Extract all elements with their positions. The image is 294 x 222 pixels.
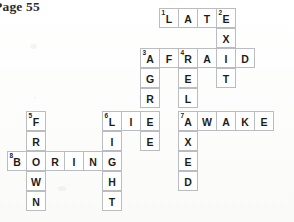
crossword-cell[interactable]: E <box>140 131 160 151</box>
crossword-cell[interactable]: 5F <box>26 111 46 131</box>
cell-letter: F <box>160 54 178 65</box>
crossword-cell[interactable]: T <box>216 68 236 88</box>
crossword-cell[interactable]: 2E <box>216 8 236 28</box>
cell-letter: T <box>198 14 216 25</box>
cell-letter: R <box>179 54 197 65</box>
crossword-cell[interactable]: K <box>235 111 255 131</box>
crossword-cell[interactable]: A <box>216 111 236 131</box>
crossword-cell[interactable]: 6L <box>102 111 122 131</box>
crossword-cell[interactable]: I <box>121 111 141 131</box>
cell-letter: E <box>179 157 197 168</box>
crossword-cell[interactable]: R <box>26 131 46 151</box>
crossword-cell[interactable]: G <box>102 151 122 171</box>
cell-letter: X <box>179 137 197 148</box>
crossword-cell[interactable]: D <box>178 171 198 191</box>
crossword-cell[interactable]: E <box>254 111 274 131</box>
crossword-cell[interactable]: G <box>140 68 160 88</box>
crossword-cell[interactable]: A <box>178 8 198 28</box>
cell-letter: E <box>141 117 159 128</box>
cell-letter: H <box>103 177 121 188</box>
cell-letter: X <box>217 34 235 45</box>
crossword-page: Page 55 1LAT2EX3AF4RAIDGETRL5F6LIE7AWAKE… <box>0 0 294 222</box>
cell-letter: A <box>179 14 197 25</box>
crossword-cell[interactable]: 7A <box>178 111 198 131</box>
cell-letter: N <box>84 157 102 168</box>
crossword-cell[interactable]: F <box>159 48 179 68</box>
cell-letter: T <box>217 74 235 85</box>
crossword-cell[interactable]: I <box>64 151 84 171</box>
cell-letter: L <box>179 94 197 105</box>
crossword-cell[interactable]: I <box>216 48 236 68</box>
cell-letter: I <box>103 137 121 148</box>
crossword-cell[interactable]: E <box>140 111 160 131</box>
crossword-cell[interactable]: I <box>102 131 122 151</box>
crossword-cell[interactable]: E <box>178 68 198 88</box>
cell-letter: D <box>236 54 254 65</box>
cell-letter: G <box>103 157 121 168</box>
crossword-cell[interactable]: 4R <box>178 48 198 68</box>
crossword-cell[interactable]: O <box>26 151 46 171</box>
cell-letter: E <box>217 14 235 25</box>
cell-letter: D <box>179 177 197 188</box>
cell-letter: R <box>141 94 159 105</box>
cell-letter: F <box>27 117 45 128</box>
cell-letter: I <box>122 117 140 128</box>
crossword-cell[interactable]: W <box>197 111 217 131</box>
crossword-cell[interactable]: A <box>197 48 217 68</box>
cell-letter: A <box>217 117 235 128</box>
crossword-cell[interactable]: 8B <box>7 151 27 171</box>
crossword-cell[interactable]: N <box>83 151 103 171</box>
crossword-cell[interactable]: 1L <box>159 8 179 28</box>
crossword-cell[interactable]: H <box>102 171 122 191</box>
cell-letter: B <box>8 157 26 168</box>
crossword-cell[interactable]: R <box>45 151 65 171</box>
crossword-cell[interactable]: 3A <box>140 48 160 68</box>
cell-letter: L <box>103 117 121 128</box>
cell-letter: R <box>27 137 45 148</box>
crossword-cell[interactable]: N <box>26 191 46 211</box>
cell-letter: A <box>179 117 197 128</box>
cell-letter: N <box>27 197 45 208</box>
cell-letter: A <box>141 54 159 65</box>
crossword-cell[interactable]: D <box>235 48 255 68</box>
crossword-cell[interactable]: R <box>140 88 160 108</box>
cell-letter: W <box>27 177 45 188</box>
cell-letter: I <box>65 157 83 168</box>
crossword-cell[interactable]: T <box>102 191 122 211</box>
cell-letter: E <box>255 117 273 128</box>
crossword-cell[interactable]: T <box>197 8 217 28</box>
crossword-grid[interactable]: 1LAT2EX3AF4RAIDGETRL5F6LIE7AWAKERIEX8BOR… <box>0 0 294 222</box>
cell-letter: E <box>141 137 159 148</box>
crossword-cell[interactable]: X <box>216 28 236 48</box>
cell-letter: T <box>103 197 121 208</box>
cell-letter: A <box>198 54 216 65</box>
crossword-cell[interactable]: L <box>178 88 198 108</box>
cell-letter: L <box>160 14 178 25</box>
cell-letter: I <box>217 54 235 65</box>
cell-letter: E <box>179 74 197 85</box>
crossword-cell[interactable]: W <box>26 171 46 191</box>
cell-letter: O <box>27 157 45 168</box>
cell-letter: R <box>46 157 64 168</box>
cell-letter: K <box>236 117 254 128</box>
cell-letter: G <box>141 74 159 85</box>
cell-letter: W <box>198 117 216 128</box>
crossword-cell[interactable]: E <box>178 151 198 171</box>
crossword-cell[interactable]: X <box>178 131 198 151</box>
